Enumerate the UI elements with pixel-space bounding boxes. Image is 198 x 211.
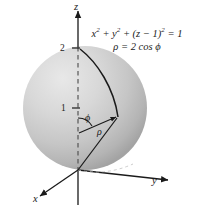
spherical-coordinates-figure: x2 + y2 + (z − 1)2 = 1 ρ = 2 cos ϕ z y x… bbox=[0, 0, 198, 211]
x-axis bbox=[40, 170, 78, 196]
equation-spherical: ρ = 2 cos ϕ bbox=[78, 40, 196, 53]
equation-block: x2 + y2 + (z − 1)2 = 1 ρ = 2 cos ϕ bbox=[78, 24, 196, 53]
z-axis-label: z bbox=[74, 1, 78, 12]
equation-cartesian: x2 + y2 + (z − 1)2 = 1 bbox=[78, 24, 196, 40]
phi-label: ϕ bbox=[85, 112, 90, 123]
z-tick-label-one: 1 bbox=[61, 103, 66, 113]
eq-mid-2: + (z − 1) bbox=[120, 28, 161, 39]
rho-label: ρ bbox=[97, 126, 102, 137]
x-axis-label: x bbox=[33, 193, 38, 204]
eq-tail: = 1 bbox=[165, 28, 183, 39]
eq-mid-1: + y bbox=[100, 28, 117, 39]
y-axis-label: y bbox=[152, 175, 157, 186]
z-tick-label-two: 2 bbox=[60, 43, 65, 53]
sphere-surface bbox=[23, 46, 147, 170]
